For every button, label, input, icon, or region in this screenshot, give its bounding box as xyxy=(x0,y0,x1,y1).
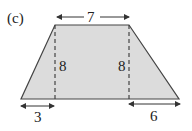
bottom-right-offset-label: 6 xyxy=(150,109,158,124)
right-height-label: 8 xyxy=(118,59,126,74)
trapezoid-diagram xyxy=(0,0,192,131)
trapezoid-shape xyxy=(21,25,179,99)
bottom-left-offset-label: 3 xyxy=(34,110,42,125)
left-height-label: 8 xyxy=(59,59,67,74)
top-dimension-label: 7 xyxy=(87,10,95,25)
figure-label: (c) xyxy=(7,11,24,26)
